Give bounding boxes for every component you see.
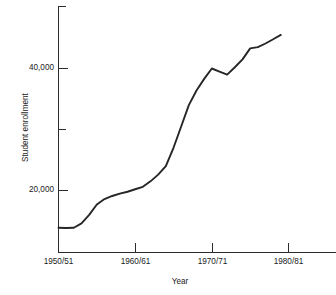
x-tick-label-1950-51: 1950/51 (30, 257, 87, 266)
y-tick-label-20000: 20,000 (21, 185, 54, 194)
y-axis-title: Student enrollment (21, 73, 30, 183)
x-tick-label-1970-71: 1970/71 (184, 257, 241, 266)
enrollment-series-line (59, 35, 281, 228)
chart-canvas (0, 0, 336, 295)
y-tick-label-40000: 40,000 (21, 63, 54, 72)
x-tick-label-1960-61: 1960/61 (107, 257, 164, 266)
line-chart: 40,000 20,000 1950/51 1960/61 1970/71 19… (0, 0, 336, 295)
x-axis-title: Year (150, 277, 210, 286)
x-tick-label-1980-81: 1980/81 (260, 257, 317, 266)
